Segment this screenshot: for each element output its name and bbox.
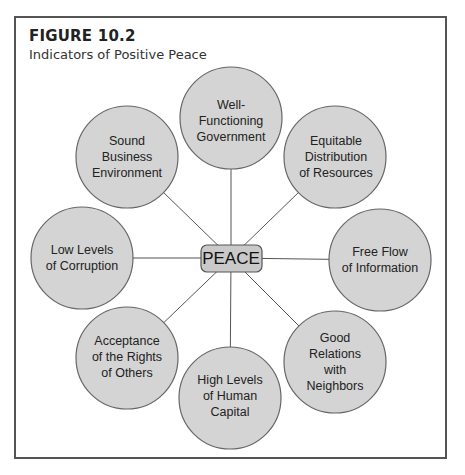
- node-human-capital: High Levels of Human Capital: [180, 372, 280, 420]
- node-corruption-line-1: Low Levels: [32, 242, 132, 258]
- node-human-capital-line-3: Capital: [180, 404, 280, 420]
- node-information-line-2: of Information: [330, 260, 430, 276]
- node-rights-line-2: of the Rights: [77, 349, 177, 365]
- node-business-line-1: Sound: [77, 133, 177, 149]
- node-business-line-2: Business: [77, 149, 177, 165]
- node-neighbors-line-4: Neighbors: [285, 378, 385, 394]
- node-neighbors-line-1: Good: [285, 330, 385, 346]
- node-rights-line-3: of Others: [77, 365, 177, 381]
- node-information: Free Flow of Information: [330, 244, 430, 276]
- node-resources-line-2: Distribution: [286, 149, 386, 165]
- node-business: Sound Business Environment: [77, 133, 177, 181]
- node-human-capital-line-2: of Human: [180, 388, 280, 404]
- node-government-line-1: Well-: [181, 97, 281, 113]
- node-resources-line-1: Equitable: [286, 133, 386, 149]
- node-government-line-2: Functioning: [181, 113, 281, 129]
- peace-label: PEACE: [200, 249, 262, 269]
- node-resources: Equitable Distribution of Resources: [286, 133, 386, 181]
- node-government-line-3: Government: [181, 129, 281, 145]
- node-neighbors: Good Relations with Neighbors: [285, 330, 385, 394]
- node-government: Well- Functioning Government: [181, 97, 281, 145]
- node-neighbors-line-2: Relations: [285, 346, 385, 362]
- node-corruption-line-2: of Corruption: [32, 258, 132, 274]
- node-rights: Acceptance of the Rights of Others: [77, 333, 177, 381]
- node-information-line-1: Free Flow: [330, 244, 430, 260]
- node-rights-line-1: Acceptance: [77, 333, 177, 349]
- node-resources-line-3: of Resources: [286, 165, 386, 181]
- node-business-line-3: Environment: [77, 165, 177, 181]
- node-corruption: Low Levels of Corruption: [32, 242, 132, 274]
- node-human-capital-line-1: High Levels: [180, 372, 280, 388]
- node-neighbors-line-3: with: [285, 362, 385, 378]
